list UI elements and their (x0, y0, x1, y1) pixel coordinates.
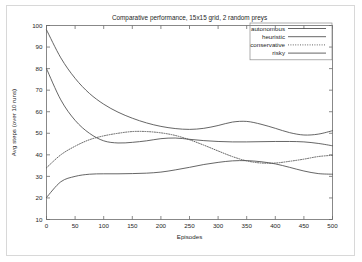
y-tick-label-80: 80 (36, 65, 43, 72)
y-tick-label-70: 70 (36, 86, 43, 93)
y-tick-label-90: 90 (36, 43, 43, 50)
x-tick-label-250: 250 (184, 222, 195, 229)
x-tick-label-100: 100 (99, 222, 110, 229)
x-tick-label-400: 400 (270, 222, 281, 229)
series-line-risky (47, 161, 333, 198)
x-tick-label-500: 500 (327, 222, 338, 229)
x-tick-label-450: 450 (299, 222, 310, 229)
y-tick-label-40: 40 (36, 151, 43, 158)
x-tick-label-150: 150 (127, 222, 138, 229)
series-line-heuristic (47, 69, 333, 146)
y-tick-label-60: 60 (36, 108, 43, 115)
y-tick-label-10: 10 (36, 216, 43, 223)
y-tick-label-20: 20 (36, 194, 43, 201)
x-tick-label-200: 200 (156, 222, 167, 229)
legend-label-risky: risky (272, 49, 286, 56)
y-tick-label-50: 50 (36, 129, 43, 136)
legend-label-autonomous: autonomous (251, 25, 285, 32)
line-chart: 1020304050607080901000501001502002503003… (0, 0, 362, 262)
y-tick-label-30: 30 (36, 173, 43, 180)
legend-label-heuristic: heuristic (262, 33, 285, 40)
x-tick-label-350: 350 (242, 222, 253, 229)
x-tick-label-300: 300 (213, 222, 224, 229)
x-tick-label-0: 0 (45, 222, 49, 229)
series-line-conservative (47, 131, 333, 167)
plot-frame (47, 26, 333, 220)
y-tick-label-100: 100 (32, 22, 43, 29)
series-line-autonomous (47, 30, 333, 135)
chart-figure: 1020304050607080901000501001502002503003… (0, 0, 362, 262)
legend-label-conservative: conservative (250, 41, 285, 48)
y-axis-title: Avg steps (over 10 runs) (10, 89, 17, 156)
x-axis-title: Episodes (177, 233, 202, 240)
chart-title: Comparative performance, 15x15 grid, 2 r… (112, 14, 267, 22)
x-tick-label-50: 50 (72, 222, 79, 229)
